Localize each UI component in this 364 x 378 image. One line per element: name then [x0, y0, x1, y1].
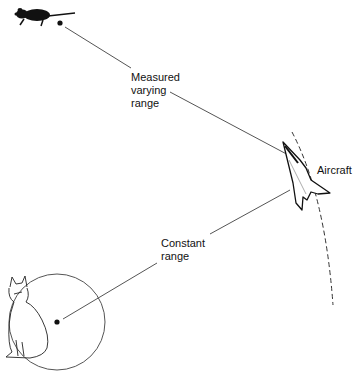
measured-varying-range-label: Measured varying range: [131, 71, 180, 110]
mouse-dot: [57, 20, 62, 25]
constant-range-label: Constant range: [161, 237, 205, 263]
cat-icon: [6, 276, 48, 358]
cat-dot: [54, 319, 59, 324]
measured-range-line-upper: [65, 27, 131, 68]
mouse-icon: [15, 8, 76, 26]
diagram-canvas: [0, 0, 364, 378]
constant-range-line-upper: [210, 190, 290, 234]
measured-range-line-lower: [170, 92, 294, 158]
constant-range-line-lower: [63, 263, 157, 319]
aircraft-label: Aircraft: [317, 164, 352, 177]
